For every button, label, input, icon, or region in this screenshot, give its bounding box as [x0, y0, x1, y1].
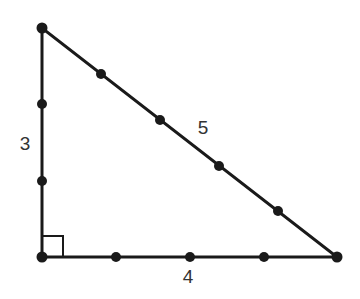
tick-dot [259, 252, 269, 262]
tick-dot [185, 252, 195, 262]
tick-dot [111, 252, 121, 262]
right-triangle-diagram: 3 4 5 [0, 0, 360, 299]
tick-dot [37, 99, 47, 109]
label-vertical-leg: 3 [20, 133, 31, 154]
label-hypotenuse: 5 [198, 117, 209, 138]
label-horizontal-leg: 4 [183, 266, 194, 287]
triangle-outline [42, 28, 337, 257]
vertex-apex [37, 23, 48, 34]
tick-dot [155, 115, 165, 125]
tick-dot [214, 161, 224, 171]
tick-dot [37, 176, 47, 186]
vertex-right-angle [37, 252, 48, 263]
vertex-base-right [332, 252, 343, 263]
tick-dot [273, 206, 283, 216]
tick-dot [96, 69, 106, 79]
